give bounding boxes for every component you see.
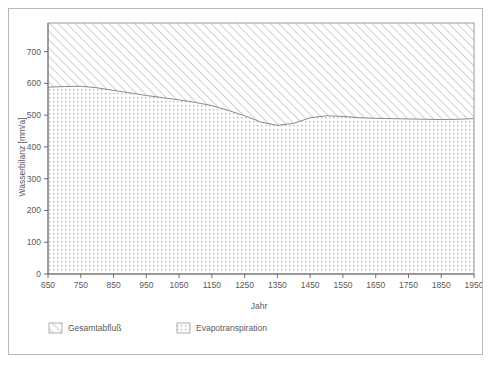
y-axis-tick-label: 200 bbox=[27, 205, 41, 215]
chart-frame: 0100200300400500600700 65075085095010501… bbox=[8, 8, 483, 355]
chart-legend: GesamtabflußEvapotranspiration bbox=[49, 323, 267, 333]
legend-swatch-evapotranspiration bbox=[177, 323, 190, 333]
x-axis-tick-label: 1550 bbox=[333, 280, 352, 290]
legend-label-gesamtabfluss: Gesamtabfluß bbox=[68, 323, 121, 333]
x-axis-tick-label: 1950 bbox=[465, 280, 482, 290]
legend-swatch-gesamtabfluss bbox=[49, 323, 62, 333]
water-balance-area-chart: 0100200300400500600700 65075085095010501… bbox=[9, 9, 482, 354]
y-axis-tick-label: 0 bbox=[36, 269, 41, 279]
y-axis-tick-label: 700 bbox=[27, 47, 41, 57]
x-axis-tick-label: 1050 bbox=[170, 280, 189, 290]
x-axis-tick-label: 1150 bbox=[203, 280, 222, 290]
y-axis-tick-label: 400 bbox=[27, 142, 41, 152]
x-axis-tick-label: 1250 bbox=[235, 280, 254, 290]
legend-label-evapotranspiration: Evapotranspiration bbox=[196, 323, 267, 333]
y-axis-tick-label: 100 bbox=[27, 237, 41, 247]
x-axis-tick-label: 1650 bbox=[366, 280, 385, 290]
y-axis-tick-label: 300 bbox=[27, 174, 41, 184]
x-axis-tick-label: 1350 bbox=[268, 280, 287, 290]
y-axis-tick-label: 500 bbox=[27, 110, 41, 120]
x-axis-tick-label: 1450 bbox=[301, 280, 320, 290]
x-axis-tick-label: 1750 bbox=[399, 280, 418, 290]
x-axis-tick-label: 1850 bbox=[432, 280, 451, 290]
plot-areas bbox=[48, 23, 474, 274]
x-axis-tick-label: 950 bbox=[139, 280, 153, 290]
y-axis: 0100200300400500600700 bbox=[27, 23, 48, 279]
x-axis: 6507508509501050115012501350145015501650… bbox=[41, 274, 482, 290]
x-axis-title: Jahr bbox=[251, 301, 268, 311]
x-axis-tick-label: 750 bbox=[74, 280, 88, 290]
x-axis-tick-label: 650 bbox=[41, 280, 55, 290]
x-axis-tick-label: 850 bbox=[106, 280, 120, 290]
y-axis-tick-label: 600 bbox=[27, 78, 41, 88]
y-axis-title: Wasserbilanz [mm/a] bbox=[17, 117, 27, 196]
